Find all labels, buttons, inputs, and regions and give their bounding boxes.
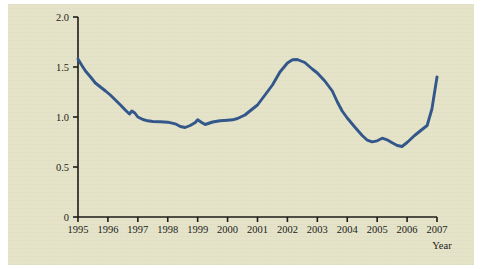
- y-axis-tick-label: 1.0: [56, 112, 69, 123]
- y-axis-tick-label: 0: [64, 212, 69, 223]
- line-chart: 00.51.01.52.0 19951996199719981999200020…: [0, 0, 483, 269]
- x-axis-tick-label: 1997: [127, 224, 148, 235]
- data-series-group: [78, 59, 437, 147]
- x-axis-tick-label: 1998: [157, 224, 178, 235]
- x-axis-title: Year: [432, 240, 452, 251]
- x-axis-tick-label: 1999: [187, 224, 208, 235]
- x-axis: 1995199619971998199920002001200220032004…: [68, 217, 448, 235]
- x-axis-tick-label: 2001: [247, 224, 268, 235]
- chart-figure: 00.51.01.52.0 19951996199719981999200020…: [0, 0, 483, 269]
- x-axis-tick-label: 2003: [307, 224, 328, 235]
- x-axis-tick-label: 2004: [337, 224, 359, 235]
- x-axis-tick-label: 2002: [277, 224, 298, 235]
- y-axis-tick-label: 2.0: [56, 12, 69, 23]
- y-axis-tick-label: 1.5: [56, 62, 69, 73]
- x-axis-tick-label: 1996: [97, 224, 118, 235]
- series-line: [78, 59, 437, 147]
- x-axis-tick-label: 1995: [68, 224, 89, 235]
- x-axis-tick-label: 2005: [367, 224, 388, 235]
- x-axis-tick-label: 2007: [427, 224, 448, 235]
- x-axis-tick-label: 2006: [397, 224, 418, 235]
- x-axis-tick-label: 2000: [217, 224, 238, 235]
- y-axis-tick-label: 0.5: [56, 162, 69, 173]
- y-axis: 00.51.01.52.0: [56, 12, 78, 223]
